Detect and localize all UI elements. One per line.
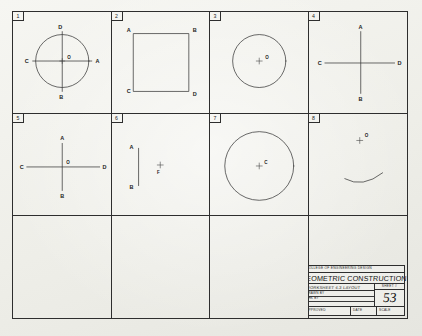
drawing-subtitle: WORKSHEET 4.3 LAYOUT [309,285,361,290]
title-block-subtitle: WORKSHEET 4.3 LAYOUT [309,284,375,291]
problem-cell-blank-4[interactable]: COLLEGE OF ENGINEERING DESIGN GEOMETRIC … [309,216,408,318]
problem-cell-8[interactable]: 8 O [309,114,408,216]
label-point-o: O [66,160,70,165]
field-drawn-by-label: DRAWN BY [309,292,325,295]
sheet-number-label: SHEET # [382,284,397,288]
title-block-title-row: GEOMETRIC CONSTRUCTION [309,273,405,284]
title-block-middle-row: WORKSHEET 4.3 LAYOUT DRAWN BY CHK BY [309,284,405,307]
label-point-o: O [364,133,368,138]
label-point-d: D [103,164,107,170]
figure-blank [210,216,308,318]
figure-circle-with-center: O [210,12,308,113]
problem-cell-5[interactable]: 5 A C D B O [13,114,112,216]
figure-cross-axes-with-center: A C D B O [13,114,111,215]
problem-cell-6[interactable]: 6 A B F [112,114,211,216]
drawing-title: GEOMETRIC CONSTRUCTION [309,274,408,283]
title-block-fields: WORKSHEET 4.3 LAYOUT DRAWN BY CHK BY [309,284,376,306]
field-checked-by-label: CHK BY [309,297,319,300]
problem-cell-3[interactable]: 3 O [210,12,309,114]
label-point-c: C [317,60,321,66]
label-point-a: A [96,58,100,64]
label-point-b: B [129,184,133,190]
figure-segment-and-point: A B F [112,114,210,215]
label-point-c: C [264,160,268,165]
label-point-c: C [20,164,24,170]
label-point-a: A [358,24,362,30]
field-scale[interactable]: SCALE [377,307,404,315]
figure-blank [112,216,210,318]
field-approved-label: APPROVED [309,309,326,312]
sheet-number-value: 53 [382,291,397,305]
figure-point-and-arc: O [309,114,408,215]
problem-grid: 1 D C A B O 2 [13,12,407,318]
label-point-d: D [192,91,196,97]
title-block: COLLEGE OF ENGINEERING DESIGN GEOMETRIC … [309,265,406,316]
problem-cell-2[interactable]: 2 A B C D [112,12,211,114]
sheet-number-box: SHEET # 53 [375,284,404,306]
label-point-d: D [58,24,62,30]
problem-cell-1[interactable]: 1 D C A B O [13,12,112,114]
field-date-label: DATE [353,309,362,312]
label-point-o: O [265,55,269,60]
title-block-bottom-row: APPROVED DATE SCALE [309,307,405,315]
label-point-a: A [126,27,130,33]
label-point-c: C [25,58,29,64]
label-point-b: B [59,94,63,100]
problem-cell-blank-2[interactable] [112,216,211,318]
label-point-d: D [397,60,401,66]
figure-square: A B C D [112,12,210,113]
label-point-b: B [358,96,362,102]
problem-cell-blank-3[interactable] [210,216,309,318]
label-point-o: O [67,55,71,60]
sheet-number-value-row: 53 [375,290,404,307]
problem-cell-4[interactable]: 4 A C D B [309,12,408,114]
school-name: COLLEGE OF ENGINEERING DESIGN [309,267,372,270]
label-point-a: A [129,144,133,150]
problem-cell-7[interactable]: 7 C [210,114,309,216]
label-point-f: F [156,170,159,175]
label-point-b: B [60,193,64,199]
field-spacer [309,302,375,306]
figure-cross-axes: A C D B [309,12,408,113]
worksheet-page: 1 D C A B O 2 [0,0,422,336]
field-date[interactable]: DATE [351,307,377,315]
figure-circle-with-diameters: D C A B O [13,12,111,113]
figure-blank [13,216,111,318]
field-approved[interactable]: APPROVED [309,307,352,315]
problem-cell-blank-1[interactable] [13,216,112,318]
field-scale-label: SCALE [379,309,391,312]
title-block-school-row: COLLEGE OF ENGINEERING DESIGN [309,266,405,273]
label-point-b: B [192,27,196,33]
label-point-c: C [126,88,130,94]
label-point-a: A [60,135,64,141]
drawing-frame: 1 D C A B O 2 [12,11,408,319]
figure-circle-with-center: C [210,114,308,215]
